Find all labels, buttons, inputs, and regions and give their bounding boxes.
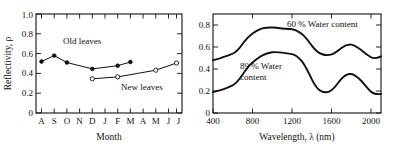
annotation-89-percent-water-line1: 89 % Water (240, 61, 282, 71)
right-plot-frame (213, 14, 381, 113)
series-old-leaves-markers (40, 54, 133, 71)
left-ytick-5: 1.0 (22, 10, 34, 20)
right-xtick-400: 400 (206, 116, 220, 126)
left-ytick-4: 0.8 (22, 29, 34, 39)
annotation-60-percent-water: 60 % Water content (287, 19, 358, 29)
figure-container: 0 0.2 0.4 0.6 0.8 1.0 Reflectivity, ρ (0, 0, 395, 147)
left-panel: 0 0.2 0.4 0.6 0.8 1.0 Reflectivity, ρ (3, 10, 182, 143)
left-ytick-3: 0.6 (22, 49, 34, 59)
right-ytick-3: 0.6 (199, 42, 211, 52)
left-x-ticks (42, 14, 177, 113)
left-yaxis-title: Reflectivity, ρ (3, 36, 13, 90)
left-xtick-J3: J (177, 116, 181, 126)
right-ytick-1: 0.2 (199, 86, 210, 96)
left-ytick-1: 0.2 (22, 88, 33, 98)
left-xtick-J1: J (103, 116, 107, 126)
left-xtick-J2: J (167, 116, 171, 126)
left-xtick-A2: A (140, 116, 147, 126)
left-xtick-N: N (76, 116, 83, 126)
left-xtick-D: D (89, 116, 96, 126)
figure-svg: 0 0.2 0.4 0.6 0.8 1.0 Reflectivity, ρ (0, 0, 395, 147)
annotation-89-percent-water-line2: content (240, 72, 267, 82)
left-ytick-0: 0 (29, 108, 34, 118)
right-xtick-1600: 1600 (323, 116, 342, 126)
right-y-ticks (213, 25, 381, 113)
left-plot-frame (36, 14, 182, 113)
right-xtick-2000: 2000 (362, 116, 381, 126)
right-ytick-4: 0.8 (199, 20, 211, 30)
series-new-leaves-line (92, 63, 176, 79)
left-xtick-O: O (64, 116, 71, 126)
curve-89-percent-water (213, 52, 381, 94)
left-xaxis-title: Month (96, 132, 122, 142)
left-xtick-A1: A (38, 116, 45, 126)
left-xtick-M1: M (126, 116, 134, 126)
right-xtick-1200: 1200 (283, 116, 302, 126)
left-xtick-M2: M (152, 116, 160, 126)
left-ytick-2: 0.4 (22, 68, 34, 78)
right-xaxis-title: Wavelength, λ (nm) (259, 132, 334, 143)
right-panel: 0 0.2 0.4 0.6 0.8 400 800 1200 1600 (199, 14, 381, 143)
left-xtick-F: F (115, 116, 120, 126)
right-ytick-2: 0.4 (199, 64, 211, 74)
left-y-ticks (36, 14, 182, 113)
annotation-new-leaves: New leaves (121, 82, 163, 92)
annotation-old-leaves: Old leaves (63, 36, 102, 46)
curve-60-percent-water (213, 27, 381, 60)
right-xtick-800: 800 (246, 116, 260, 126)
left-xtick-S: S (52, 116, 57, 126)
